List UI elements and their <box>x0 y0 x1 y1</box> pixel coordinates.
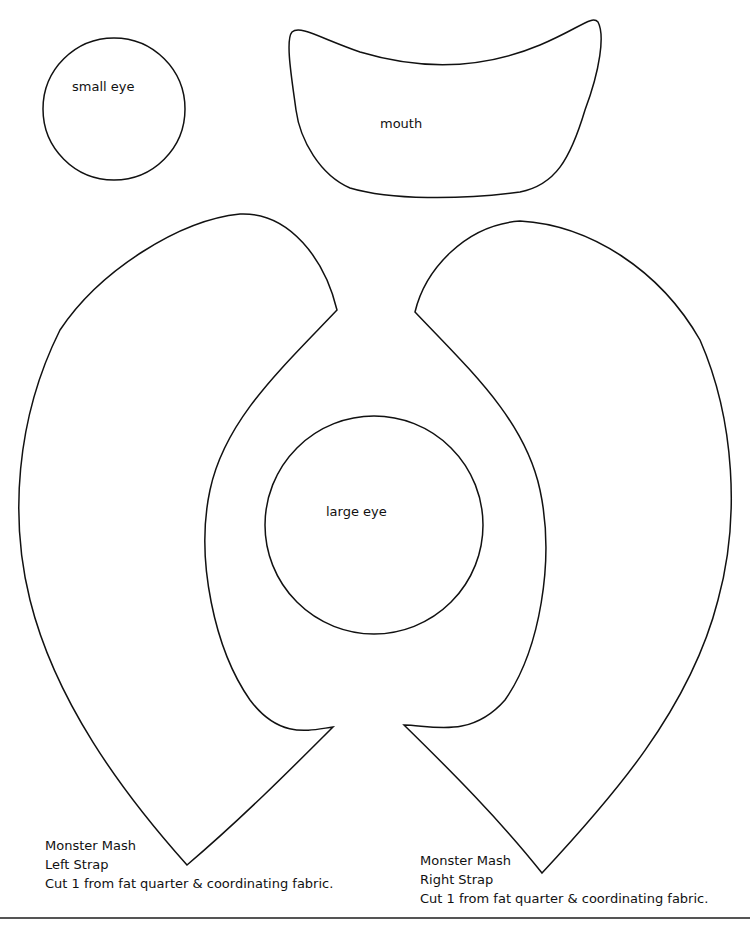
right-strap-caption: Monster Mash Right Strap Cut 1 from fat … <box>420 851 708 908</box>
left-strap-instructions: Cut 1 from fat quarter & coordinating fa… <box>45 874 333 893</box>
mouth-shape <box>289 20 601 198</box>
right-strap-title: Monster Mash <box>420 851 708 870</box>
right-strap-name: Right Strap <box>420 870 708 889</box>
left-strap-title: Monster Mash <box>45 836 333 855</box>
large-eye-label: large eye <box>326 502 387 521</box>
pattern-shapes <box>0 0 750 932</box>
left-strap-caption: Monster Mash Left Strap Cut 1 from fat q… <box>45 836 333 893</box>
small-eye-label: small eye <box>72 77 134 96</box>
small-eye-shape <box>43 38 185 180</box>
left-strap-shape <box>19 214 337 865</box>
right-strap-shape <box>404 221 731 873</box>
large-eye-shape <box>265 416 483 634</box>
mouth-label: mouth <box>380 114 422 133</box>
right-strap-instructions: Cut 1 from fat quarter & coordinating fa… <box>420 889 708 908</box>
left-strap-name: Left Strap <box>45 855 333 874</box>
page-divider <box>0 917 750 919</box>
